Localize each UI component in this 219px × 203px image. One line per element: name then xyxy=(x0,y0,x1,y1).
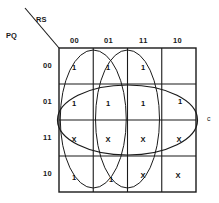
cell-r01-c11: 1 xyxy=(141,100,145,108)
karnaugh-map-figure: RS PQ 00 01 11 10 00 01 11 10 1 1 1 1 1 … xyxy=(0,0,219,203)
row-header-1: 01 xyxy=(43,98,52,106)
cell-r01-c00: 1 xyxy=(72,100,76,108)
cell-r00-c00: 1 xyxy=(72,64,76,72)
column-header-0: 00 xyxy=(70,37,79,45)
output-label: c xyxy=(207,115,211,122)
row-header-3: 10 xyxy=(43,170,52,178)
cell-r11-c01: X xyxy=(105,136,110,144)
left-variables-label: PQ xyxy=(6,32,17,40)
cell-r10-c11: X xyxy=(140,172,145,180)
cell-r00-c11: 1 xyxy=(141,64,145,72)
cell-r11-c10: X xyxy=(176,136,181,144)
column-header-1: 01 xyxy=(104,37,113,45)
cell-r01-c01: 1 xyxy=(106,100,110,108)
cell-r01-c10: 1 xyxy=(178,98,182,106)
cell-r00-c01: 1 xyxy=(106,64,110,72)
cell-r11-c11: X xyxy=(140,136,145,144)
row-header-2: 11 xyxy=(43,134,52,142)
cell-r10-c01: 1 xyxy=(109,176,113,184)
column-header-2: 11 xyxy=(139,37,148,45)
header-diagonal-line xyxy=(25,8,59,48)
row-header-0: 00 xyxy=(43,62,52,70)
top-variables-label: RS xyxy=(36,16,46,24)
cell-r10-c10: X xyxy=(175,172,180,180)
cell-r11-c00: X xyxy=(71,136,76,144)
cell-r10-c00: 1 xyxy=(72,174,76,182)
column-header-3: 10 xyxy=(173,37,182,45)
